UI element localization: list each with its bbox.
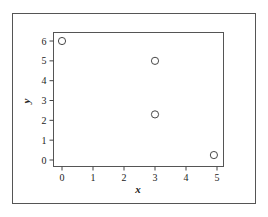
data-points — [58, 37, 217, 158]
y-tick-label: 4 — [42, 75, 47, 86]
y-tick-label: 6 — [42, 36, 47, 47]
scatter-chart: 012345 0123456 x y — [0, 0, 268, 217]
y-axis-label: y — [20, 98, 32, 105]
x-axis-ticks: 012345 — [60, 167, 220, 183]
x-axis-label: x — [134, 183, 141, 195]
data-point-marker — [210, 151, 217, 158]
plot-area — [54, 33, 224, 167]
y-tick-label: 5 — [42, 55, 47, 66]
y-tick-label: 1 — [42, 135, 47, 146]
data-point-marker — [58, 37, 65, 44]
x-tick-label: 4 — [184, 172, 189, 183]
x-tick-label: 5 — [215, 172, 220, 183]
y-tick-label: 0 — [42, 155, 47, 166]
data-point-marker — [151, 57, 158, 64]
x-tick-label: 1 — [91, 172, 96, 183]
x-tick-label: 0 — [60, 172, 65, 183]
data-point-marker — [151, 111, 158, 118]
y-axis-ticks: 0123456 — [42, 36, 54, 166]
y-tick-label: 3 — [42, 95, 47, 106]
x-tick-label: 3 — [153, 172, 158, 183]
y-tick-label: 2 — [42, 115, 47, 126]
x-tick-label: 2 — [122, 172, 127, 183]
